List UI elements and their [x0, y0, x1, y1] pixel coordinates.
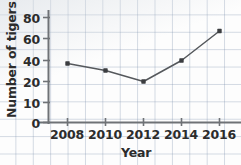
y-tick-label-80: 80 — [16, 11, 40, 26]
x-axis-title: Year — [121, 145, 151, 160]
data-point-2012 — [141, 79, 145, 83]
y-tick-label-20: 20 — [16, 75, 40, 90]
y-tick-label-0: 0 — [16, 116, 40, 131]
x-tick-label-2014: 2014 — [164, 127, 198, 142]
x-tick-label-2010: 2010 — [88, 127, 122, 142]
y-axis-title: Number of tigers — [4, 1, 19, 118]
data-point-2008 — [65, 61, 69, 65]
data-point-2010 — [103, 68, 107, 72]
data-point-2016 — [217, 29, 221, 33]
x-tick-label-2016: 2016 — [202, 127, 236, 142]
x-tick-label-2008: 2008 — [50, 127, 84, 142]
data-point-2014 — [179, 58, 183, 62]
data-line-number-of-tigers — [68, 31, 220, 82]
x-tick-label-2012: 2012 — [126, 127, 160, 142]
data-markers — [65, 29, 221, 84]
y-tick-label-60: 60 — [16, 32, 40, 47]
y-tick-label-10: 10 — [16, 96, 40, 111]
y-tick-label-40: 40 — [16, 54, 40, 69]
